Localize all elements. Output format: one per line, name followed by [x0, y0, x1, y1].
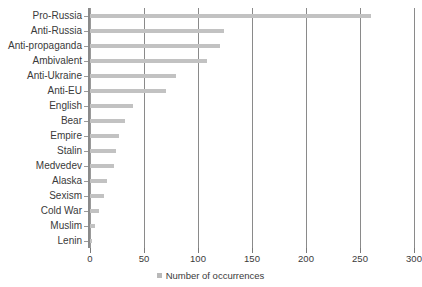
bar-row — [90, 188, 104, 203]
y-axis-tick — [84, 196, 88, 197]
bar-row — [90, 38, 220, 53]
y-axis-tick — [84, 226, 88, 227]
y-axis-tick — [84, 91, 88, 92]
legend-label: Number of occurrences — [166, 270, 265, 281]
bar — [90, 209, 99, 213]
x-axis-label: 200 — [298, 253, 314, 264]
y-axis-tick — [84, 106, 88, 107]
y-axis-tick — [84, 211, 88, 212]
y-axis-tick — [84, 166, 88, 167]
x-axis-labels: 050100150200250300 — [0, 253, 421, 267]
y-axis-label: Medvedev — [36, 158, 82, 173]
y-axis-label: English — [49, 98, 82, 113]
bar-row — [90, 53, 207, 68]
y-axis-label: Pro-Russia — [33, 8, 82, 23]
y-axis-label: Anti-EU — [48, 83, 82, 98]
y-axis-label: Sexism — [49, 188, 82, 203]
y-axis-label: Anti-Ukraine — [27, 68, 82, 83]
bar-row — [90, 98, 133, 113]
x-axis-label: 50 — [139, 253, 150, 264]
bar — [90, 119, 125, 123]
y-axis-tick — [84, 46, 88, 47]
bar-row — [90, 203, 99, 218]
y-axis-label: Stalin — [57, 143, 82, 158]
y-axis-label: Anti-Russia — [31, 23, 82, 38]
bar-row — [90, 173, 107, 188]
y-axis-tick — [84, 241, 88, 242]
bar-row — [90, 83, 166, 98]
bar-row — [90, 68, 176, 83]
y-axis-labels: Pro-RussiaAnti-RussiaAnti-propagandaAmbi… — [0, 8, 86, 248]
gridline-300 — [414, 8, 415, 248]
bar-row — [90, 143, 116, 158]
bar — [90, 149, 116, 153]
bar — [90, 194, 104, 198]
y-axis-label: Bear — [61, 113, 82, 128]
y-axis-tick — [84, 31, 88, 32]
bar — [90, 104, 133, 108]
y-axis-label: Anti-propaganda — [8, 38, 82, 53]
bar-row — [90, 218, 95, 233]
x-axis-label: 150 — [244, 253, 260, 264]
bar — [90, 224, 95, 228]
y-axis-label: Cold War — [41, 203, 82, 218]
bar — [90, 14, 371, 18]
bar — [90, 44, 220, 48]
y-axis-label: Empire — [50, 128, 82, 143]
x-axis-label: 250 — [352, 253, 368, 264]
y-axis-tick — [84, 76, 88, 77]
chart-title: Main clusters of Crimean memes — [0, 0, 421, 2]
bar-row — [90, 23, 224, 38]
y-axis-label: Lenin — [58, 233, 82, 248]
y-axis-tick — [84, 151, 88, 152]
bar — [90, 164, 114, 168]
x-axis-label: 300 — [406, 253, 422, 264]
y-axis-tick — [84, 61, 88, 62]
plot-area — [90, 8, 414, 248]
y-axis-label: Muslim — [50, 218, 82, 233]
y-axis-label: Ambivalent — [33, 53, 82, 68]
x-axis-label: 0 — [87, 253, 92, 264]
bar-row — [90, 8, 371, 23]
legend-swatch-icon — [157, 273, 162, 278]
y-axis-tick — [84, 181, 88, 182]
y-axis-tick — [84, 16, 88, 17]
bar-row — [90, 233, 92, 248]
bar-row — [90, 113, 125, 128]
bar — [90, 179, 107, 183]
bar — [90, 29, 224, 33]
bar-row — [90, 128, 119, 143]
bar — [90, 74, 176, 78]
bar — [90, 89, 166, 93]
bar — [90, 239, 92, 243]
bar — [90, 59, 207, 63]
bar — [90, 134, 119, 138]
bar-series — [90, 8, 414, 248]
bar-row — [90, 158, 114, 173]
y-axis-tick — [84, 121, 88, 122]
x-axis-label: 100 — [190, 253, 206, 264]
y-axis-label: Alaska — [52, 173, 82, 188]
chart-legend: Number of occurrences — [0, 270, 421, 281]
y-axis-tick — [84, 136, 88, 137]
